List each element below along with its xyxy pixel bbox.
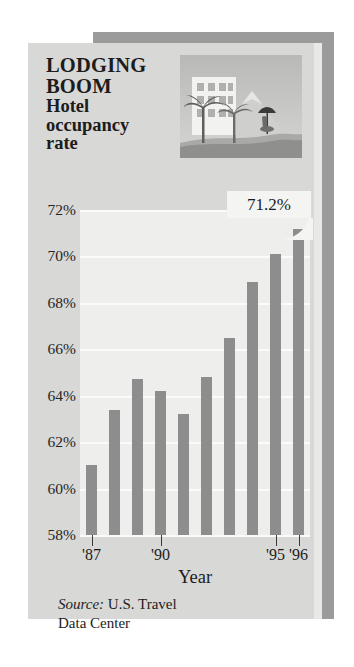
headline-line-4: occupancy	[46, 116, 186, 135]
y-axis-tick-label: 68%	[48, 294, 76, 312]
y-axis-tick-label: 72%	[48, 201, 76, 219]
bar	[86, 465, 97, 535]
headline-line-1: LODGING	[46, 55, 186, 76]
x-axis-tick	[299, 535, 301, 546]
y-axis-tick-label: 66%	[48, 340, 76, 358]
x-axis-tick	[161, 535, 163, 546]
headline-line-3: Hotel	[46, 97, 186, 116]
status-badge: 71.2%	[227, 191, 311, 218]
bar	[224, 338, 235, 535]
callout-pointer-icon	[283, 218, 313, 240]
x-axis-tick-label: '95	[266, 546, 285, 564]
page-title: LODGING BOOM Hotel occupancy rate	[46, 55, 186, 153]
bar-series	[80, 210, 310, 535]
callout-value: 71.2%	[247, 195, 291, 215]
x-axis-tick-label: '87	[82, 546, 101, 564]
bar	[132, 379, 143, 535]
bar	[201, 377, 212, 535]
y-axis-tick-label: 58%	[48, 526, 76, 544]
source-line-2: Data Center	[58, 615, 130, 631]
y-axis-labels: 58%60%62%64%66%68%70%72%	[28, 210, 80, 535]
x-axis-tick	[276, 535, 278, 546]
frame-shadow-right	[322, 32, 334, 619]
x-axis-tick-label: '96	[289, 546, 308, 564]
source-text: U.S. Travel	[104, 596, 177, 612]
y-axis-tick-label: 70%	[48, 247, 76, 265]
x-axis-title: Year	[80, 567, 310, 588]
bar	[270, 254, 281, 535]
source-prefix: Source:	[58, 596, 104, 612]
bar	[178, 414, 189, 535]
bar	[155, 391, 166, 535]
x-axis-tick	[92, 535, 94, 546]
lodging-boom-infographic: LODGING BOOM Hotel occupancy rate	[0, 0, 354, 667]
y-axis-tick-label: 62%	[48, 433, 76, 451]
headline-line-2: BOOM	[46, 76, 186, 97]
bar	[247, 282, 258, 535]
chart-panel: LODGING BOOM Hotel occupancy rate	[28, 43, 322, 619]
tropical-resort-illustration	[180, 55, 302, 158]
x-axis-tick-label: '90	[151, 546, 170, 564]
y-axis-tick-label: 60%	[48, 480, 76, 498]
bar	[109, 410, 120, 535]
bar	[293, 229, 304, 535]
source-note: Source: U.S. Travel Data Center	[58, 595, 278, 633]
headline-line-5: rate	[46, 134, 186, 153]
y-axis-tick-label: 64%	[48, 387, 76, 405]
